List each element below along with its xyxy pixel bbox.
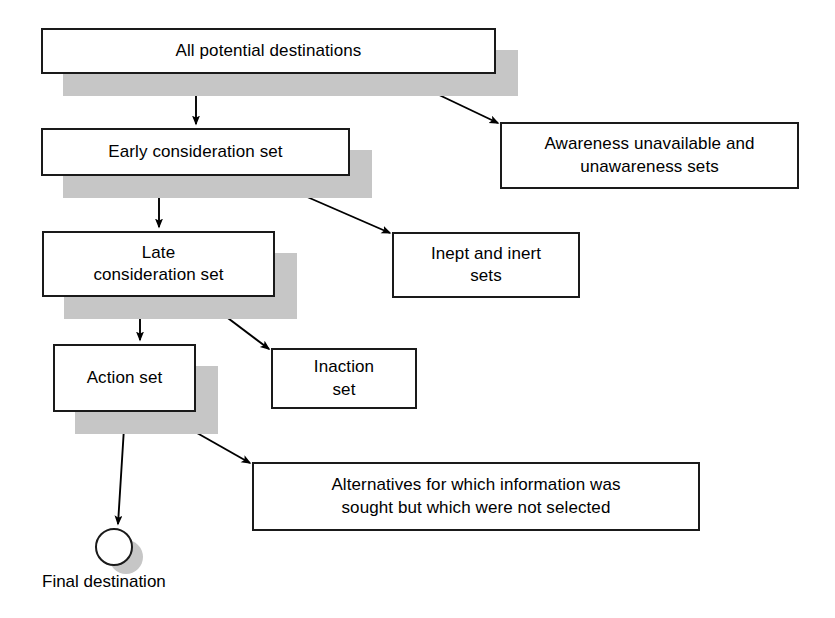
node-late-consideration-set[interactable]: Late consideration set: [42, 231, 275, 297]
node-all-potential-destinations[interactable]: All potential destinations: [41, 28, 496, 74]
node-inaction-set[interactable]: Inaction set: [271, 348, 417, 409]
node-label: Inaction set: [308, 356, 380, 401]
node-alternatives-not-selected[interactable]: Alternatives for which information was s…: [252, 462, 700, 531]
node-inept-and-inert-sets[interactable]: Inept and inert sets: [392, 232, 580, 298]
final-destination-circle[interactable]: [95, 528, 133, 566]
node-label: Early consideration set: [102, 141, 288, 163]
node-label: All potential destinations: [170, 40, 368, 62]
node-early-consideration-set[interactable]: Early consideration set: [41, 128, 350, 176]
node-label: Alternatives for which information was s…: [325, 474, 626, 519]
node-label: Inept and inert sets: [425, 243, 547, 288]
node-awareness-unavailable-and-unawareness-sets[interactable]: Awareness unavailable and unawareness se…: [500, 122, 799, 189]
node-label: Late consideration set: [87, 242, 229, 287]
node-label: Action set: [81, 367, 169, 389]
flowchart-canvas: All potential destinationsAwareness unav…: [0, 0, 835, 618]
node-label: Awareness unavailable and unawareness se…: [538, 133, 760, 178]
node-action-set[interactable]: Action set: [53, 344, 196, 412]
final-destination-label: Final destination: [42, 572, 166, 592]
